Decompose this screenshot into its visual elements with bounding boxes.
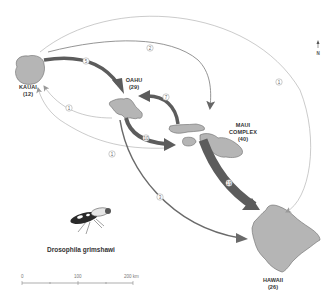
island-name: KAUAI — [16, 84, 40, 91]
route-label: 5 — [83, 58, 89, 64]
route-label: 1 — [109, 151, 115, 157]
route-label: 2 — [147, 45, 153, 51]
island-name: HAWAII — [258, 277, 288, 284]
svg-text:200 km: 200 km — [124, 274, 139, 279]
label-oahu: OAHU (29) — [122, 77, 146, 91]
island-hawaii — [252, 205, 320, 272]
species-count: (26) — [258, 284, 288, 291]
arrowhead — [164, 138, 176, 151]
arrowhead — [138, 90, 150, 102]
island-kauai — [16, 55, 45, 84]
colonization-map: 1 2 5 7 1 1 10 3 19 N 0 100 200 km — [0, 0, 336, 305]
route-label: 10 — [143, 135, 149, 141]
svg-text:19: 19 — [226, 181, 232, 186]
island-oahu — [109, 98, 142, 118]
route-kauai-maui — [48, 41, 211, 108]
fly-illustration-icon — [69, 206, 111, 234]
route-label: 1 — [276, 79, 282, 85]
route-label: 7 — [163, 94, 169, 100]
route-maui-oahu — [148, 96, 178, 124]
svg-text:10: 10 — [143, 136, 149, 141]
label-hawaii: HAWAII (26) — [258, 277, 288, 291]
island-name: MAUI — [226, 122, 260, 129]
scale-bar: 0 100 200 km — [21, 274, 139, 285]
svg-text:100: 100 — [74, 274, 82, 279]
species-count: (40) — [226, 136, 260, 143]
svg-text:N: N — [316, 51, 319, 56]
label-maui-complex: MAUI COMPLEX (40) — [226, 122, 260, 143]
species-count: (12) — [16, 91, 40, 98]
svg-text:0: 0 — [21, 274, 24, 279]
island-name: OAHU — [122, 77, 146, 84]
route-oahu-kauai — [44, 86, 112, 118]
north-arrow-icon: N — [316, 40, 319, 56]
route-label: 19 — [226, 180, 232, 186]
route-kauai-oahu — [44, 58, 118, 84]
island-name-2: COMPLEX — [226, 129, 260, 136]
route-label: 1 — [66, 105, 72, 111]
label-kauai: KAUAI (12) — [16, 84, 40, 98]
species-name: Drosophila grimshawi — [47, 246, 115, 253]
species-count: (29) — [122, 84, 146, 91]
arrowhead — [236, 233, 248, 243]
route-label: 3 — [157, 194, 163, 200]
